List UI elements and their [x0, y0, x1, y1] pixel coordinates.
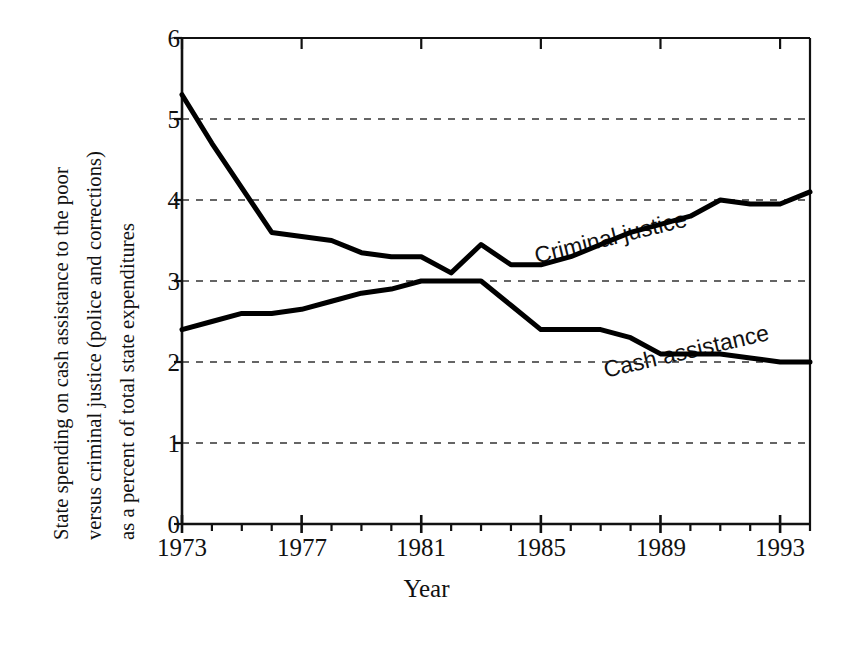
axis-ticks: [174, 38, 810, 533]
plot-area: [0, 0, 853, 646]
gridlines: [182, 119, 810, 443]
chart-figure: State spending on cash assistance to the…: [0, 0, 853, 646]
line-criminal-justice: [182, 95, 810, 273]
line-cash-assistance: [182, 281, 810, 362]
